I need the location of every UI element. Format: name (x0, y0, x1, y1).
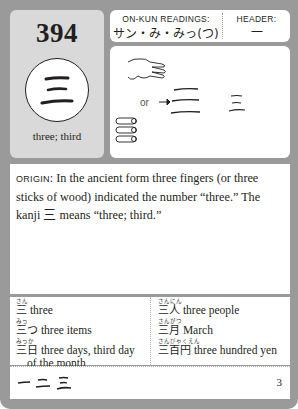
readings-value: サン・み・みっ(つ) (110, 24, 222, 41)
modern-three-icon (229, 96, 245, 112)
kanji-panel: 394 three; third (10, 10, 104, 158)
vocab-meaning: three items (41, 324, 92, 336)
or-label: or (140, 97, 150, 108)
kanji-card: 394 three; third ON-KUN READINGS: サン・み・み… (0, 0, 298, 409)
origin-section: ORIGIN: In the ancient form three finger… (10, 164, 290, 294)
vocab-meaning: three (30, 304, 53, 316)
vocab-word: 三百円 (158, 344, 191, 357)
origin-kanji: 三 (43, 207, 56, 222)
vocab-meaning: three people (183, 304, 240, 316)
vocab-meaning: March (183, 324, 213, 336)
readings-box: ON-KUN READINGS: サン・み・みっ(つ) HEADER: 一 (110, 10, 290, 42)
hand-three-fingers-icon (128, 59, 166, 79)
kanji-number: 394 (10, 18, 104, 49)
vocab-word: 三人 (158, 304, 180, 317)
vocab-item: みっ 三つ three items (16, 318, 150, 337)
stroke-order-icon (16, 374, 76, 394)
vocab-item: さんにん 三人 three people (158, 298, 290, 317)
origin-text: ORIGIN: In the ancient form three finger… (16, 169, 286, 224)
origin-label: ORIGIN (16, 174, 50, 184)
kanji-circle (25, 58, 89, 122)
kanji-three-icon (37, 70, 77, 110)
vocab-item: さんびゃくえん 三百円 three hundred yen (158, 338, 290, 357)
arrow-right-icon (159, 99, 170, 105)
vocab-word: 三つ (16, 324, 38, 337)
vocab-word: 三日 (16, 344, 38, 357)
vocab-word: 三月 (158, 324, 180, 337)
stroke-order-section: 3 (10, 366, 290, 399)
three-sticks-icon (116, 118, 137, 142)
vocab-word: 三 (16, 304, 27, 317)
vocab-item: さんがつ 三月 March (158, 318, 290, 337)
vocab-item: さん 三 three (16, 298, 150, 317)
readings-label: ON-KUN READINGS: (110, 14, 222, 24)
vocabulary-section: さん 三 three みっ 三つ three items みっか 三日 thre… (10, 297, 290, 365)
stroke-count: 3 (277, 376, 283, 388)
origin-illustration: or (110, 46, 290, 158)
vocab-column-left: さん 三 three みっ 三つ three items みっか 三日 thre… (10, 297, 150, 365)
header-value: 一 (223, 23, 290, 40)
vocab-meaning: three hundred yen (194, 344, 277, 356)
vocab-meaning: three days, third day (41, 344, 135, 356)
ancient-three-icon (171, 89, 200, 113)
kanji-meaning: three; third (10, 130, 104, 142)
vocab-column-right: さんにん 三人 three people さんがつ 三月 March さんびゃく… (150, 297, 290, 365)
